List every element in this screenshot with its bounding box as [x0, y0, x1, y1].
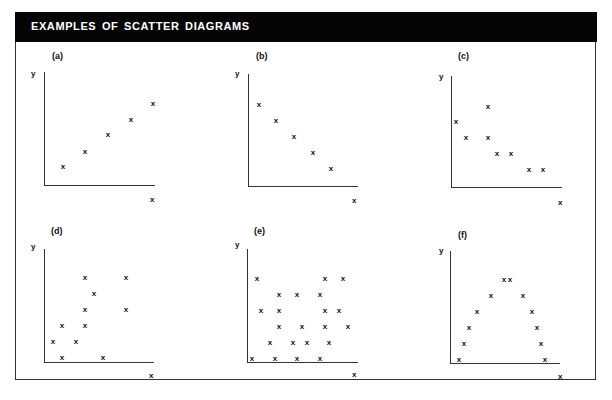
y-axis-line: [44, 72, 45, 185]
data-point-x-marker: x: [275, 291, 283, 299]
data-point-x-marker: x: [473, 308, 481, 316]
data-point-x-marker: x: [275, 307, 283, 315]
x-axis-label: x: [558, 198, 562, 207]
data-point-x-marker: x: [248, 355, 256, 363]
data-point-x-marker: x: [81, 274, 89, 282]
data-point-x-marker: x: [452, 118, 460, 126]
data-point-x-marker: x: [344, 323, 352, 331]
data-point-x-marker: x: [303, 339, 311, 347]
data-point-x-marker: x: [506, 276, 514, 284]
data-point-x-marker: x: [275, 323, 283, 331]
y-axis-line: [44, 249, 45, 362]
panel-label: (d): [51, 226, 63, 236]
x-axis-label: x: [352, 196, 356, 205]
data-point-x-marker: x: [537, 340, 545, 348]
data-point-x-marker: x: [321, 275, 329, 283]
data-point-x-marker: x: [316, 355, 324, 363]
data-point-x-marker: x: [149, 100, 157, 108]
data-point-x-marker: x: [321, 307, 329, 315]
data-point-x-marker: x: [507, 150, 515, 158]
data-point-x-marker: x: [58, 354, 66, 362]
data-point-x-marker: x: [257, 307, 265, 315]
data-point-x-marker: x: [90, 290, 98, 298]
data-point-x-marker: x: [484, 134, 492, 142]
data-point-x-marker: x: [541, 356, 549, 364]
y-axis-label: y: [439, 72, 443, 81]
data-point-x-marker: x: [519, 292, 527, 300]
data-point-x-marker: x: [72, 338, 80, 346]
data-point-x-marker: x: [455, 356, 463, 364]
figure-header: EXAMPLES OF SCATTER DIAGRAMS: [15, 12, 597, 42]
data-point-x-marker: x: [253, 275, 261, 283]
x-axis-label: x: [149, 371, 153, 380]
data-point-x-marker: x: [293, 291, 301, 299]
y-axis-line: [247, 249, 248, 362]
data-point-x-marker: x: [493, 150, 501, 158]
panel-label: (a): [52, 51, 63, 61]
data-point-x-marker: x: [487, 292, 495, 300]
data-point-x-marker: x: [528, 308, 536, 316]
data-point-x-marker: x: [462, 134, 470, 142]
data-point-x-marker: x: [289, 339, 297, 347]
x-axis-line: [44, 362, 154, 363]
data-point-x-marker: x: [325, 339, 333, 347]
x-axis-line: [44, 185, 155, 186]
data-point-x-marker: x: [460, 340, 468, 348]
y-axis-label: y: [235, 240, 239, 249]
data-point-x-marker: x: [81, 306, 89, 314]
data-point-x-marker: x: [321, 323, 329, 331]
data-point-x-marker: x: [484, 103, 492, 111]
x-axis-line: [248, 186, 358, 187]
data-point-x-marker: x: [298, 323, 306, 331]
data-point-x-marker: x: [533, 324, 541, 332]
data-point-x-marker: x: [104, 131, 112, 139]
data-point-x-marker: x: [58, 322, 66, 330]
data-point-x-marker: x: [271, 355, 279, 363]
panel-label: (e): [254, 226, 265, 236]
data-point-x-marker: x: [266, 339, 274, 347]
y-axis-line: [451, 76, 452, 187]
panel-label: (c): [458, 51, 469, 61]
y-axis-label: y: [31, 69, 35, 78]
data-point-x-marker: x: [327, 165, 335, 173]
y-axis-line: [450, 251, 451, 363]
data-point-x-marker: x: [127, 116, 135, 124]
panel-label: (b): [256, 51, 268, 61]
data-point-x-marker: x: [122, 306, 130, 314]
panel-label: (f): [458, 230, 467, 240]
data-point-x-marker: x: [49, 338, 57, 346]
data-point-x-marker: x: [309, 149, 317, 157]
x-axis-label: x: [558, 372, 562, 381]
data-point-x-marker: x: [59, 163, 67, 171]
x-axis-line: [451, 187, 562, 188]
y-axis-label: y: [31, 242, 35, 251]
x-axis-label: x: [150, 195, 154, 204]
figure-title: EXAMPLES OF SCATTER DIAGRAMS: [31, 20, 250, 32]
y-axis-label: y: [439, 246, 443, 255]
data-point-x-marker: x: [255, 101, 263, 109]
data-point-x-marker: x: [525, 166, 533, 174]
data-point-x-marker: x: [293, 355, 301, 363]
data-point-x-marker: x: [272, 117, 280, 125]
data-point-x-marker: x: [81, 148, 89, 156]
x-axis-label: x: [352, 370, 356, 379]
data-point-x-marker: x: [290, 133, 298, 141]
data-point-x-marker: x: [465, 324, 473, 332]
y-axis-label: y: [235, 69, 239, 78]
x-axis-line: [247, 362, 358, 363]
data-point-x-marker: x: [339, 275, 347, 283]
data-point-x-marker: x: [335, 307, 343, 315]
y-axis-line: [248, 74, 249, 186]
data-point-x-marker: x: [539, 166, 547, 174]
data-point-x-marker: x: [316, 291, 324, 299]
data-point-x-marker: x: [99, 354, 107, 362]
data-point-x-marker: x: [122, 274, 130, 282]
data-point-x-marker: x: [81, 322, 89, 330]
